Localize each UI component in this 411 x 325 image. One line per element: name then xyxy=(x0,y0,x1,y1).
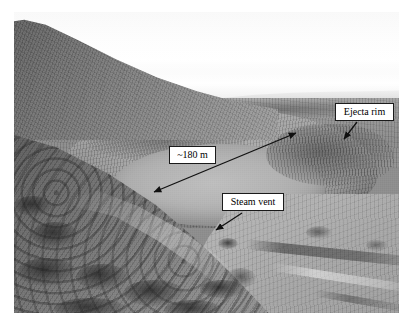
shrub-right-upper xyxy=(306,226,332,239)
ejecta-rim-deposit-texture xyxy=(266,124,394,186)
steam-vent-feature xyxy=(218,238,238,249)
label-distance-measurement[interactable]: ~180 m xyxy=(169,146,216,164)
shrub-right-lower xyxy=(366,240,388,251)
shrub-clump xyxy=(32,222,78,248)
figure-container: Ejecta rim ~180 m Steam vent xyxy=(0,0,411,325)
shrub-clump xyxy=(14,196,52,216)
shrub-clump xyxy=(76,264,128,290)
shrub-clump xyxy=(18,258,76,286)
label-steam-vent[interactable]: Steam vent xyxy=(222,193,284,211)
label-ejecta-rim[interactable]: Ejecta rim xyxy=(335,103,394,121)
foreground-dark-notch xyxy=(226,268,256,288)
shrub-clump xyxy=(54,298,126,313)
shrub-clump xyxy=(164,300,222,313)
